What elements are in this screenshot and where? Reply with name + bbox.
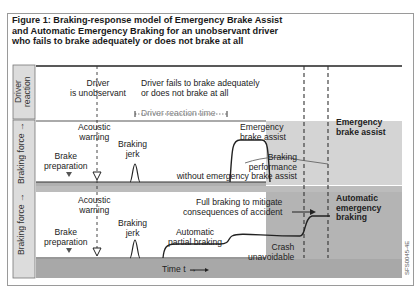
text-line: brake assist — [336, 128, 386, 138]
text-line: or does not brake at all — [141, 89, 259, 99]
aeb-crash-unavoidable: Crash unavoidable — [248, 243, 294, 262]
text-line: brake assist — [240, 133, 286, 143]
aeb-side-label: Automatic emergency braking — [336, 194, 381, 223]
text-line: unavoidable — [248, 253, 294, 263]
time-axis-label: Time t → — [162, 265, 197, 275]
text-line: warning — [78, 206, 110, 216]
braking-force-axis-top: Braking force → — [17, 122, 31, 184]
driver-reaction-axis-label: Driver reaction — [14, 68, 34, 116]
driver-fails-label: Driver fails to brake adequately or does… — [141, 79, 259, 98]
text-line: braking — [336, 213, 381, 223]
text-line: partial braking — [168, 238, 222, 248]
text-line: warning — [78, 133, 110, 143]
text-line: jerk — [118, 150, 147, 160]
axis-line: reaction — [22, 77, 32, 108]
aeb-brake-preparation: Brake preparation — [44, 228, 87, 247]
eba-emergency-brake-assist: Emergency brake assist — [240, 123, 286, 142]
text-line: preparation — [44, 162, 87, 172]
driver-unobservant-label: Driver is unobservant — [70, 79, 126, 98]
time-bar — [36, 259, 402, 278]
eba-acoustic-warning: Acoustic warning — [78, 123, 110, 142]
aeb-automatic-partial-braking: Automatic partial braking — [168, 228, 222, 247]
aeb-braking-jerk: Braking jerk — [118, 219, 147, 238]
driver-reaction-time-label: Driver reaction time — [141, 109, 216, 119]
text-line: is unobservant — [70, 89, 126, 99]
figure-code: SFS0045-4E — [403, 236, 411, 280]
eba-brake-preparation: Brake preparation — [44, 152, 87, 171]
text-line: without emergency brake assist — [165, 172, 297, 182]
aeb-full-braking: Full braking to mitigate consequences of… — [183, 198, 282, 217]
eba-braking-performance: Braking performance without emergency br… — [165, 153, 297, 182]
braking-force-axis-bottom: Braking force → — [17, 190, 31, 258]
aeb-acoustic-warning: Acoustic warning — [78, 196, 110, 215]
text-line: jerk — [118, 229, 147, 239]
text-line: consequences of accident — [183, 208, 282, 218]
eba-side-label: Emergency brake assist — [336, 118, 386, 137]
text-line: preparation — [44, 238, 87, 248]
eba-braking-jerk: Braking jerk — [118, 140, 147, 159]
diagram-graphics — [0, 0, 418, 291]
